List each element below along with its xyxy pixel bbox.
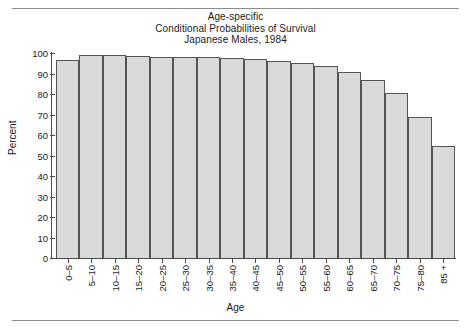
x-tick: 40–45: [244, 259, 267, 303]
x-tick-mark: [396, 259, 397, 263]
bar: [197, 57, 220, 258]
x-tick: 15–20: [126, 259, 149, 303]
x-tick: 45–50: [267, 259, 290, 303]
x-tick-mark: [349, 259, 350, 263]
bar: [432, 146, 455, 258]
chart-title: Age-specific Conditional Probabilities o…: [0, 11, 471, 46]
x-tick: 10–15: [103, 259, 126, 303]
bar-cell: [173, 53, 196, 258]
bar-cell: [408, 53, 431, 258]
bar-cell: [244, 53, 267, 258]
bar: [220, 58, 243, 258]
x-tick-label: 35–40: [227, 265, 238, 291]
x-tick: 85 +: [432, 259, 455, 303]
bar-cell: [79, 53, 102, 258]
bar: [244, 59, 267, 258]
x-tick-mark: [420, 259, 421, 263]
bar-cell: [385, 53, 408, 258]
bar-cell: [338, 53, 361, 258]
y-tick-mark: [50, 74, 55, 75]
x-tick-label: 40–45: [250, 265, 261, 291]
x-axis-ticks: 0–55–1010–1515–2020–2525–3030–3535–4040–…: [56, 259, 455, 303]
x-tick-mark: [279, 259, 280, 263]
x-tick-label: 5–10: [86, 265, 97, 286]
x-tick: 5–10: [79, 259, 102, 303]
y-tick-mark: [50, 176, 55, 177]
x-tick-label: 0–5: [62, 265, 73, 281]
x-tick-mark: [443, 259, 444, 263]
x-tick-mark: [232, 259, 233, 263]
bar: [56, 60, 79, 258]
x-tick-mark: [91, 259, 92, 263]
bar: [314, 66, 337, 258]
bar-cell: [361, 53, 384, 258]
x-tick: 50–55: [291, 259, 314, 303]
bar: [291, 63, 314, 258]
bar-cell: [103, 53, 126, 258]
y-tick-label: 60: [37, 130, 48, 141]
y-tick-mark: [50, 115, 55, 116]
bar: [150, 57, 173, 258]
bar-cell: [150, 53, 173, 258]
x-tick-mark: [138, 259, 139, 263]
bottom-divider: [12, 320, 459, 321]
x-tick-label: 85 +: [438, 265, 449, 284]
bar: [79, 55, 102, 258]
bar-cell: [56, 53, 79, 258]
x-axis-label: Age: [0, 302, 471, 313]
y-tick-mark: [50, 197, 55, 198]
x-tick: 35–40: [220, 259, 243, 303]
x-tick: 25–30: [173, 259, 196, 303]
y-tick-label: 100: [32, 48, 48, 59]
chart-title-line-2: Conditional Probabilities of Survival: [0, 23, 471, 35]
x-tick: 75–80: [408, 259, 431, 303]
top-divider: [12, 8, 459, 9]
bar: [385, 93, 408, 258]
bar-cell: [126, 53, 149, 258]
x-tick-mark: [209, 259, 210, 263]
x-tick-label: 65–70: [367, 265, 378, 291]
y-tick-mark: [50, 238, 55, 239]
bar-series: [56, 53, 455, 258]
y-tick-label: 80: [37, 89, 48, 100]
x-tick-label: 30–35: [203, 265, 214, 291]
x-tick: 70–75: [385, 259, 408, 303]
bar-cell: [432, 53, 455, 258]
bar: [338, 72, 361, 258]
x-tick-label: 45–50: [273, 265, 284, 291]
y-tick-label: 50: [37, 150, 48, 161]
y-tick-mark: [50, 135, 55, 136]
x-tick-mark: [326, 259, 327, 263]
x-tick-mark: [185, 259, 186, 263]
bar-cell: [314, 53, 337, 258]
x-tick-mark: [302, 259, 303, 263]
bar-cell: [220, 53, 243, 258]
x-tick-label: 55–60: [320, 265, 331, 291]
chart-title-line-3: Japanese Males, 1984: [0, 34, 471, 46]
y-tick-label: 40: [37, 171, 48, 182]
x-tick-mark: [68, 259, 69, 263]
y-axis-label: Percent: [7, 121, 18, 155]
x-tick: 60–65: [338, 259, 361, 303]
x-tick: 30–35: [197, 259, 220, 303]
x-tick: 55–60: [314, 259, 337, 303]
bar: [361, 80, 384, 258]
x-tick-label: 25–30: [180, 265, 191, 291]
bar-cell: [197, 53, 220, 258]
y-tick-label: 30: [37, 191, 48, 202]
plot-area: 0102030405060708090100: [56, 53, 455, 258]
bar-cell: [267, 53, 290, 258]
y-tick-label: 20: [37, 212, 48, 223]
x-tick: 20–25: [150, 259, 173, 303]
chart-title-line-1: Age-specific: [0, 11, 471, 23]
bar: [173, 57, 196, 258]
y-tick-mark: [50, 217, 55, 218]
x-tick-label: 20–25: [156, 265, 167, 291]
x-tick-mark: [373, 259, 374, 263]
y-tick-mark: [50, 53, 55, 54]
y-tick-label: 90: [37, 68, 48, 79]
x-tick-label: 50–55: [297, 265, 308, 291]
chart-figure: Age-specific Conditional Probabilities o…: [0, 0, 471, 330]
bar: [408, 117, 431, 258]
x-tick-label: 60–65: [344, 265, 355, 291]
